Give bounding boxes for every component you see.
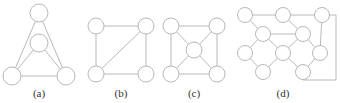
graph-node: [276, 8, 291, 23]
graph-node: [88, 66, 104, 82]
graph-node: [238, 8, 253, 23]
panel-label: (c): [188, 87, 201, 100]
graph-panel-a: (a): [3, 4, 75, 100]
graph-node: [256, 65, 271, 80]
panel-label: (a): [33, 87, 46, 100]
graph-node: [30, 4, 48, 22]
graph-node: [256, 27, 271, 42]
graph-node: [57, 67, 75, 85]
graph-node: [238, 46, 253, 61]
panel-label: (b): [115, 87, 128, 100]
graph-node: [209, 18, 225, 34]
graph-figure: (a) (b) (c) (d): [0, 0, 340, 103]
graph-panel-c: (c): [163, 18, 225, 100]
graph-node: [163, 18, 179, 34]
graph-node: [138, 66, 154, 82]
graph-edge: [96, 26, 146, 74]
graph-node: [88, 18, 104, 34]
graph-node: [163, 66, 179, 82]
graph-node: [276, 46, 291, 61]
panel-label: (d): [277, 87, 290, 100]
graph-panel-d: (d): [238, 8, 337, 101]
graph-node: [209, 66, 225, 82]
graph-node: [315, 8, 330, 23]
graph-node: [296, 65, 311, 80]
graph-node: [3, 67, 21, 85]
graph-panel-b: (b): [88, 18, 154, 100]
graph-node: [30, 34, 48, 52]
graph-node: [296, 27, 311, 42]
graph-node: [186, 42, 202, 58]
graph-node: [138, 18, 154, 34]
graph-node: [313, 46, 328, 61]
